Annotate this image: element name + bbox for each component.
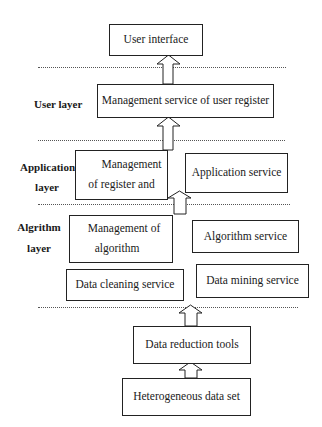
algorithm-layer-label-line1: Algrithm <box>14 221 64 233</box>
mgmt-algorithm-text-line2: algorithm <box>95 242 140 256</box>
arrow-up-icon <box>179 305 202 326</box>
arrow-up-icon <box>168 191 191 214</box>
user-interface-box: User interface <box>109 24 203 56</box>
mgmt-user-register-text: Management service of user register <box>102 94 269 108</box>
application-layer-label-line1: Application <box>20 161 74 173</box>
mgmt-user-register-box: Management service of user register <box>97 84 274 118</box>
arrow-up-icon <box>179 362 202 378</box>
user-layer-label: User layer <box>34 98 82 110</box>
arrow-up-icon <box>157 55 180 84</box>
heterogeneous-data-text: Heterogeneous data set <box>133 390 240 404</box>
mgmt-register-text-line2: of register and <box>88 178 154 192</box>
data-mining-box: Data mining service <box>196 264 309 298</box>
algorithm-layer-label-line2: layer <box>14 242 64 254</box>
algorithm-service-box: Algorithm service <box>192 220 299 253</box>
arrow-up-icon <box>157 117 180 150</box>
data-reduction-box: Data reduction tools <box>133 326 251 364</box>
application-layer-label-line2: layer <box>20 181 74 193</box>
heterogeneous-data-box: Heterogeneous data set <box>122 378 251 416</box>
data-mining-text: Data mining service <box>206 274 299 288</box>
application-service-box: Application service <box>185 153 288 193</box>
data-cleaning-box: Data cleaning service <box>66 269 184 301</box>
mgmt-algorithm-text-line1: Management of <box>88 222 161 236</box>
data-cleaning-text: Data cleaning service <box>76 278 175 292</box>
application-service-text: Application service <box>192 166 282 180</box>
mgmt-register-box: Management of register and <box>75 150 168 200</box>
mgmt-register-text-line1: Management <box>101 158 161 172</box>
user-interface-text: User interface <box>124 33 189 47</box>
mgmt-algorithm-box: Management of algorithm <box>69 215 173 263</box>
algorithm-service-text: Algorithm service <box>204 230 287 244</box>
data-reduction-text: Data reduction tools <box>145 338 238 352</box>
